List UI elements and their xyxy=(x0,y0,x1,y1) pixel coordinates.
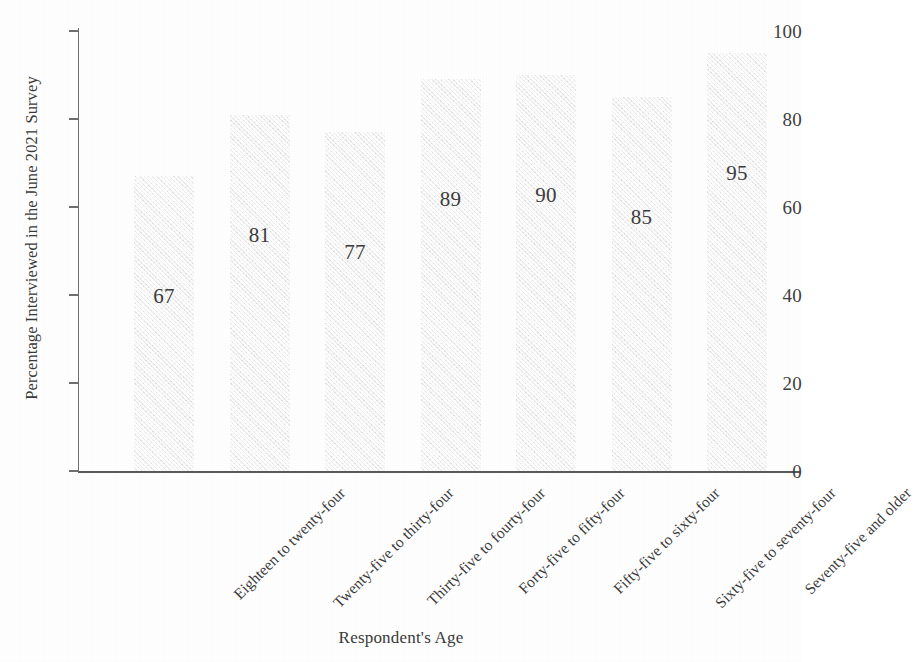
bar-value-label: 67 xyxy=(124,286,204,307)
bar xyxy=(516,75,576,471)
bar xyxy=(707,53,767,471)
bar xyxy=(325,132,385,471)
bar xyxy=(612,97,672,471)
bar-value-label: 77 xyxy=(315,242,395,263)
bar-value-label: 89 xyxy=(411,189,491,210)
bar xyxy=(421,79,481,471)
x-axis-title: Respondent's Age xyxy=(0,628,802,648)
bar-value-label: 90 xyxy=(506,185,586,206)
bar-value-label: 81 xyxy=(220,225,300,246)
bar xyxy=(230,115,290,471)
bar xyxy=(134,176,194,471)
bar-value-label: 85 xyxy=(602,207,682,228)
bar-value-label: 95 xyxy=(697,163,777,184)
